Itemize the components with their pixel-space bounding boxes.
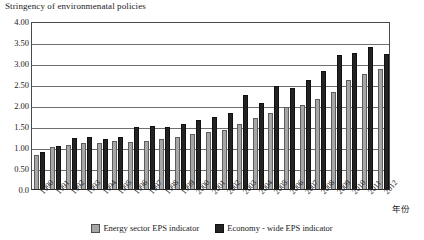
x-axis-tick-labels: 1990199119921993199419951996199719981999…	[31, 191, 390, 225]
legend-swatch-economy-wide	[215, 224, 224, 233]
bar-group	[297, 23, 313, 189]
y-tick-label: 3.50	[14, 39, 29, 48]
bar-energy-sector	[300, 105, 305, 189]
bar-economy-wide	[134, 127, 139, 189]
legend-label: Economy - wide EPS indicator	[227, 223, 332, 233]
bar-economy-wide	[290, 88, 295, 189]
bar-group	[32, 23, 48, 189]
bar-series-container	[32, 23, 389, 189]
y-tick-label: 0.0	[18, 186, 29, 195]
x-axis-label: 年份	[392, 202, 410, 214]
chart-legend: Energy sector EPS indicatorEconomy - wid…	[0, 223, 424, 233]
legend-swatch-energy-sector	[91, 224, 100, 233]
y-tick-label: 2.50	[14, 81, 29, 90]
y-tick-label: 1.50	[14, 123, 29, 132]
plot-area	[31, 22, 390, 190]
bar-economy-wide	[243, 95, 248, 190]
bar-economy-wide	[150, 126, 155, 189]
bar-group	[126, 23, 142, 189]
bar-group	[141, 23, 157, 189]
bar-energy-sector	[34, 155, 39, 189]
bar-group	[266, 23, 282, 189]
bar-economy-wide	[368, 47, 373, 189]
bar-economy-wide	[352, 53, 357, 190]
bar-economy-wide	[306, 80, 311, 189]
bar-economy-wide	[212, 117, 217, 189]
bar-group	[251, 23, 267, 189]
bar-energy-sector	[315, 99, 320, 189]
y-axis-tick-labels: 4.003.503.002.502.001.501.000.500.0	[0, 0, 29, 190]
legend-label: Energy sector EPS indicator	[103, 223, 199, 233]
bar-economy-wide	[337, 55, 342, 189]
bar-group	[235, 23, 251, 189]
bar-group	[329, 23, 345, 189]
bar-group	[204, 23, 220, 189]
bar-economy-wide	[384, 54, 389, 189]
y-tick-label: 2.00	[14, 102, 29, 111]
bar-economy-wide	[274, 86, 279, 189]
bar-group	[188, 23, 204, 189]
bar-group	[63, 23, 79, 189]
bar-energy-sector	[331, 92, 336, 189]
chart-root: Stringency of environmenatal policies 4.…	[0, 0, 424, 240]
bar-energy-sector	[346, 80, 351, 189]
bar-group	[344, 23, 360, 189]
bar-group	[360, 23, 376, 189]
bar-group	[94, 23, 110, 189]
bar-economy-wide	[165, 127, 170, 189]
y-tick-label: 0.50	[14, 165, 29, 174]
bar-group	[157, 23, 173, 189]
bar-energy-sector	[284, 107, 289, 189]
bar-energy-sector	[362, 74, 367, 190]
bar-group	[313, 23, 329, 189]
bar-group	[282, 23, 298, 189]
bar-group	[172, 23, 188, 189]
bar-energy-sector	[268, 113, 273, 189]
bar-economy-wide	[181, 124, 186, 189]
bar-group	[79, 23, 95, 189]
y-tick-label: 3.00	[14, 60, 29, 69]
bar-economy-wide	[259, 103, 264, 189]
bar-group	[48, 23, 64, 189]
bar-economy-wide	[321, 71, 326, 189]
legend-item[interactable]: Economy - wide EPS indicator	[215, 223, 332, 233]
bar-economy-wide	[196, 120, 201, 189]
bar-group	[219, 23, 235, 189]
bar-group	[110, 23, 126, 189]
bar-energy-sector	[253, 118, 258, 189]
y-tick-label: 4.00	[14, 18, 29, 27]
legend-item[interactable]: Energy sector EPS indicator	[91, 223, 199, 233]
bar-energy-sector	[378, 69, 383, 189]
bar-group	[375, 23, 391, 189]
bar-economy-wide	[228, 113, 233, 189]
y-tick-label: 1.00	[14, 144, 29, 153]
